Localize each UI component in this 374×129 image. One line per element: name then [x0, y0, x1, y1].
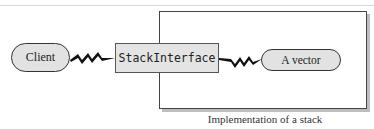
stack-interface-node: StackInterface: [115, 43, 219, 73]
client-node: Client: [11, 43, 70, 72]
interface-label: StackInterface: [119, 51, 216, 65]
vector-label: A vector: [281, 54, 320, 66]
client-label: Client: [26, 50, 55, 65]
top-rule-divider: [0, 5, 374, 6]
figure-caption: Implementation of a stack: [159, 113, 371, 125]
vector-node: A vector: [261, 49, 341, 71]
lightning-connector-icon: [70, 48, 116, 68]
lightning-connector-icon: [219, 51, 263, 71]
